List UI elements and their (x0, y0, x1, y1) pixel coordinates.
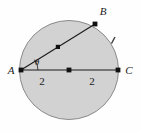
point-label-A: A (7, 64, 15, 76)
point-label-B: B (100, 5, 107, 17)
point-center-dot (67, 68, 72, 73)
point-C-dot (116, 68, 121, 73)
point-B-dot (93, 22, 98, 27)
angle-label-theta: θ (35, 57, 40, 67)
geometry-figure: A B C θ 2 2 (0, 0, 141, 132)
point-label-C: C (125, 64, 133, 76)
point-A-dot (19, 68, 24, 73)
measure-label-left: 2 (39, 75, 45, 87)
geometry-diagram: A B C θ 2 2 (0, 0, 141, 132)
point-chord-midpoint-dot (56, 45, 60, 49)
measure-label-right: 2 (89, 75, 95, 87)
